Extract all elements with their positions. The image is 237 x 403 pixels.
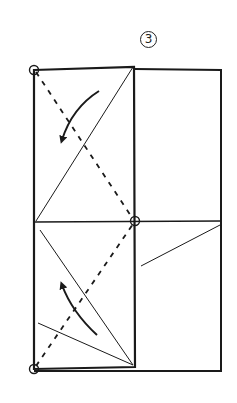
right-panel-crease xyxy=(141,225,220,266)
upper-diagonal-crease xyxy=(36,67,133,221)
fold-arrows xyxy=(62,91,99,335)
horizontal-midline xyxy=(34,221,221,222)
paper-outline xyxy=(34,69,221,371)
crease-lines xyxy=(36,67,220,365)
lower-fold-arrow-icon xyxy=(62,285,97,335)
upper-fold-arrow-icon xyxy=(62,91,99,140)
reference-points xyxy=(30,66,140,374)
folded-flap-outline xyxy=(34,67,135,369)
step-number-badge: 3 xyxy=(140,31,157,48)
upper-valley-fold xyxy=(36,72,133,219)
origami-diagram xyxy=(0,0,237,403)
